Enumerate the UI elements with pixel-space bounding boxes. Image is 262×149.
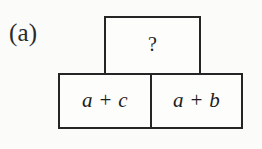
bottom-right-expression: a + b: [173, 90, 220, 111]
bottom-left-expression: a + c: [82, 90, 128, 111]
bottom-left-cell: a + c: [58, 73, 152, 129]
bottom-right-cell: a + b: [150, 73, 243, 129]
pyramid-diagram: ? a + c a + b: [0, 0, 262, 149]
unknown-sum-cell: ?: [104, 16, 201, 74]
unknown-sum-label: ?: [148, 34, 157, 54]
figure-root: (a) ? a + c a + b: [0, 0, 262, 149]
